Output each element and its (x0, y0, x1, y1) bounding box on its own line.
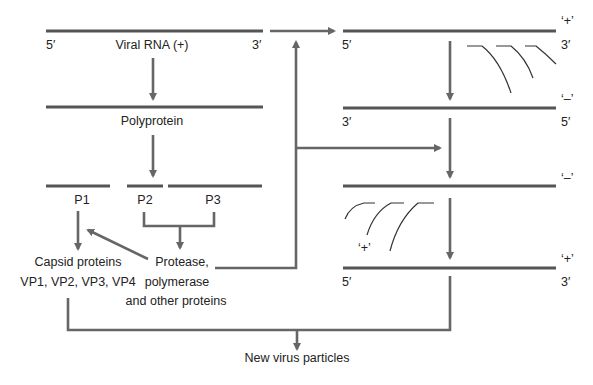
nascent-strand-curve (390, 203, 434, 251)
five-prime-label: 5′ (342, 39, 351, 52)
p1-label: P1 (74, 194, 89, 207)
nascent-plus-label: ‘+’ (358, 242, 371, 255)
polymerase-label: polymerase (145, 276, 210, 289)
three-prime-label: 3′ (342, 116, 351, 129)
three-prime-label: 3′ (561, 276, 570, 289)
p2-p3-bracket (144, 212, 214, 226)
protease-label: Protease, (155, 256, 209, 269)
capsid-vp-label: VP1, VP2, VP3, VP4 (20, 276, 135, 289)
minus-sense-label: ‘–’ (561, 172, 574, 185)
arrow-up-icon (215, 42, 296, 268)
three-prime-label: 3′ (252, 39, 261, 52)
minus-sense-label: ‘–’ (561, 93, 574, 106)
other-proteins-label: and other proteins (126, 295, 227, 308)
plus-sense-label: ‘+’ (561, 253, 574, 266)
three-prime-label: 3′ (561, 39, 570, 52)
nascent-strand-curve (496, 46, 533, 78)
viral-rna-label: Viral RNA (+) (115, 39, 188, 52)
nascent-strand-curve (367, 203, 404, 235)
nascent-strand-curve (467, 46, 511, 93)
polyprotein-label: Polyprotein (121, 115, 184, 128)
five-prime-label: 5′ (46, 39, 55, 52)
p3-label: P3 (205, 194, 220, 207)
nascent-strand-curve (345, 203, 375, 219)
strands (46, 31, 556, 268)
capsid-label: Capsid proteins (35, 256, 122, 269)
new-virus-particles-label: New virus particles (245, 352, 350, 365)
five-prime-label: 5′ (342, 276, 351, 289)
plus-sense-label: ‘+’ (561, 15, 574, 28)
p2-label: P2 (137, 194, 152, 207)
five-prime-label: 5′ (561, 116, 570, 129)
nascent-strand-curve (525, 46, 556, 64)
